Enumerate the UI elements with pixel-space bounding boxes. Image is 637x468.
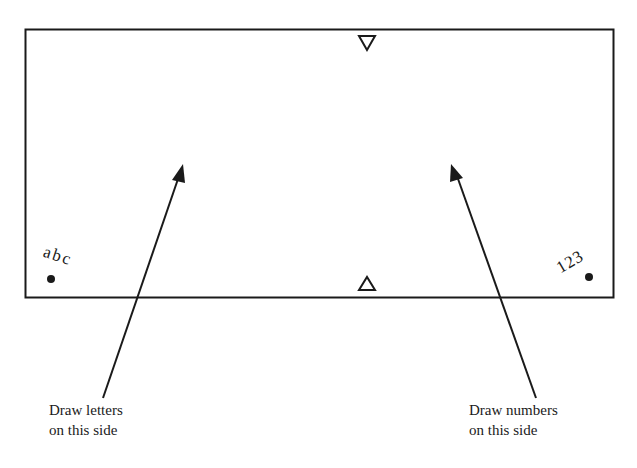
right-arrow-icon (450, 164, 536, 398)
right-dot-icon (585, 273, 593, 281)
left-caption-line2: on this side (49, 420, 123, 440)
bottom-triangle-marker-icon (359, 277, 375, 290)
right-caption-line2: on this side (469, 420, 558, 440)
left-caption: Draw letters on this side (49, 400, 123, 440)
left-dot-icon (47, 275, 55, 283)
right-caption: Draw numbers on this side (469, 400, 558, 440)
numbers-marker: 123 (556, 252, 585, 272)
letters-marker-text: abc (41, 242, 75, 270)
right-caption-line1: Draw numbers (469, 400, 558, 420)
diagram-canvas (0, 0, 637, 468)
drawing-area-border (26, 30, 614, 298)
left-arrow-icon (103, 164, 185, 398)
top-triangle-marker-icon (359, 36, 375, 50)
letters-marker: abc (43, 246, 73, 266)
left-caption-line1: Draw letters (49, 400, 123, 420)
